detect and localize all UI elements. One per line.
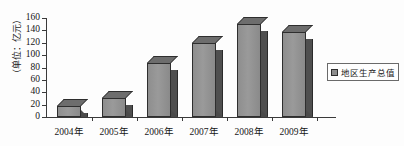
y-tick-mark bbox=[42, 92, 46, 93]
y-tick-mark bbox=[42, 80, 46, 81]
y-tick-label: 160 bbox=[26, 13, 40, 23]
y-tick-label: 100 bbox=[26, 50, 40, 60]
bar-face bbox=[147, 63, 171, 117]
x-tick-label: 2009年 bbox=[280, 124, 309, 138]
bar-top bbox=[192, 36, 223, 43]
y-tick-mark bbox=[42, 68, 46, 69]
y-tick-label: 120 bbox=[26, 38, 40, 48]
x-axis-line bbox=[46, 117, 336, 118]
y-tick-mark bbox=[42, 43, 46, 44]
x-tick-label: 2008年 bbox=[235, 124, 264, 138]
x-tick-label: 2005年 bbox=[100, 124, 129, 138]
bar-side-bevel bbox=[81, 110, 88, 117]
bar-series bbox=[47, 18, 336, 117]
y-tick-label: 60 bbox=[31, 75, 41, 85]
x-tick-mark bbox=[227, 117, 228, 121]
legend-swatch-icon bbox=[331, 69, 338, 76]
y-tick-label: 40 bbox=[31, 88, 41, 98]
x-tick-mark bbox=[317, 117, 318, 121]
x-tick-mark bbox=[92, 117, 93, 121]
bar-side-bevel bbox=[261, 110, 268, 117]
bar-side-bevel bbox=[306, 110, 313, 117]
chart-figure: （单位：亿元） 020406080100120140160 2004年2005年… bbox=[0, 0, 404, 146]
y-tick-label: 80 bbox=[31, 63, 41, 73]
bar-side-bevel bbox=[171, 110, 178, 117]
y-axis-title: （单位：亿元） bbox=[10, 1, 23, 93]
bar-2004年 bbox=[57, 106, 81, 117]
bar-side-bevel bbox=[126, 110, 133, 117]
bar-face bbox=[102, 98, 126, 117]
plot-area: 020406080100120140160 2004年2005年2006年200… bbox=[46, 18, 216, 118]
y-tick-mark bbox=[42, 55, 46, 56]
bar-top bbox=[237, 17, 268, 24]
y-tick-label: 0 bbox=[35, 112, 40, 122]
y-tick-mark bbox=[42, 117, 46, 118]
y-tick-label: 140 bbox=[26, 26, 40, 36]
bar-2008年 bbox=[237, 24, 261, 117]
bar-top bbox=[147, 56, 178, 63]
bar-face bbox=[237, 24, 261, 117]
bar-side bbox=[306, 39, 313, 117]
bar-face bbox=[57, 106, 81, 117]
y-tick-mark bbox=[42, 18, 46, 19]
x-tick-label: 2004年 bbox=[55, 124, 84, 138]
x-tick-mark bbox=[182, 117, 183, 121]
x-tick-mark bbox=[137, 117, 138, 121]
y-tick-label: 20 bbox=[31, 100, 41, 110]
bar-2006年 bbox=[147, 63, 171, 117]
bar-side bbox=[261, 31, 268, 117]
bar-top bbox=[57, 99, 88, 106]
bar-side bbox=[216, 50, 223, 117]
y-tick-mark bbox=[42, 30, 46, 31]
x-tick-mark bbox=[272, 117, 273, 121]
chart-legend: 地区生产总值 bbox=[327, 63, 399, 81]
bar-top bbox=[282, 25, 313, 32]
bar-2005年 bbox=[102, 98, 126, 117]
y-tick-mark bbox=[42, 105, 46, 106]
bar-2009年 bbox=[282, 32, 306, 117]
x-tick-label: 2006年 bbox=[145, 124, 174, 138]
bar-face bbox=[282, 32, 306, 117]
legend-label: 地区生产总值 bbox=[341, 66, 395, 78]
x-tick-label: 2007年 bbox=[190, 124, 219, 138]
bar-face bbox=[192, 43, 216, 117]
bar-2007年 bbox=[192, 43, 216, 117]
bar-side-bevel bbox=[216, 110, 223, 117]
bar-top bbox=[102, 91, 133, 98]
